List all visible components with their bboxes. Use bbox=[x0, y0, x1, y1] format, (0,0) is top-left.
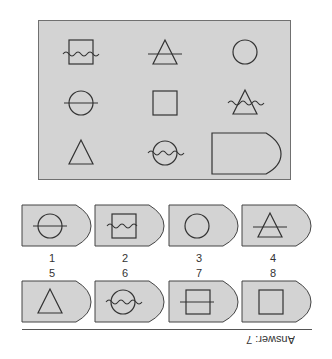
option-1-label: 1 bbox=[42, 252, 62, 264]
option-5[interactable] bbox=[21, 280, 93, 324]
option-4[interactable] bbox=[241, 204, 313, 248]
cell-circle bbox=[225, 33, 265, 73]
option-triangle-icon bbox=[21, 280, 93, 324]
blank-tag-icon bbox=[211, 132, 283, 176]
circle-wave-icon bbox=[145, 133, 185, 173]
answer-text: Answer: 7 bbox=[246, 334, 295, 346]
circle-line-icon bbox=[61, 83, 101, 123]
divider-line bbox=[22, 329, 312, 330]
option-circle-wave-icon bbox=[94, 280, 166, 324]
cell-triangle bbox=[61, 133, 101, 173]
option-square-wave-icon bbox=[94, 204, 166, 248]
puzzle-matrix-panel bbox=[38, 20, 291, 180]
triangle-line-icon bbox=[145, 33, 185, 73]
option-circle-icon bbox=[168, 204, 240, 248]
option-3[interactable] bbox=[168, 204, 240, 248]
option-6-label: 6 bbox=[115, 267, 135, 279]
square-wave-icon bbox=[61, 33, 101, 73]
cell-circle-wave bbox=[145, 133, 185, 173]
option-5-label: 5 bbox=[42, 267, 62, 279]
triangle-icon bbox=[61, 133, 101, 173]
option-3-label: 3 bbox=[189, 252, 209, 264]
answer-placeholder-tag bbox=[211, 132, 283, 176]
option-4-label: 4 bbox=[263, 252, 283, 264]
circle-icon bbox=[225, 33, 265, 73]
option-square-line-icon bbox=[168, 280, 240, 324]
option-2-label: 2 bbox=[115, 252, 135, 264]
option-triangle-line-icon bbox=[241, 204, 313, 248]
cell-triangle-line bbox=[145, 33, 185, 73]
option-7[interactable] bbox=[168, 280, 240, 324]
cell-square bbox=[145, 83, 185, 123]
option-2[interactable] bbox=[94, 204, 166, 248]
option-square-icon bbox=[241, 280, 313, 324]
option-1[interactable] bbox=[21, 204, 93, 248]
triangle-wave-icon bbox=[225, 83, 265, 123]
option-circle-line-icon bbox=[21, 204, 93, 248]
option-8-label: 8 bbox=[263, 267, 283, 279]
option-7-label: 7 bbox=[189, 267, 209, 279]
cell-circle-line bbox=[61, 83, 101, 123]
option-8[interactable] bbox=[241, 280, 313, 324]
cell-square-wave bbox=[61, 33, 101, 73]
option-6[interactable] bbox=[94, 280, 166, 324]
square-icon bbox=[145, 83, 185, 123]
cell-triangle-wave bbox=[225, 83, 265, 123]
